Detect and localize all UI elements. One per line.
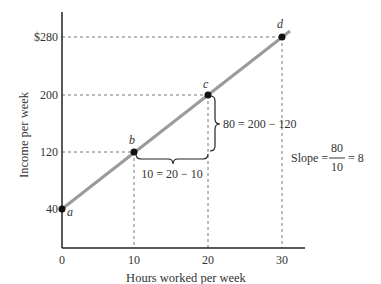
x-axis-title: Hours worked per week [126,271,247,284]
run-brace-icon [136,154,208,164]
label-a: a [67,205,73,219]
x-tick-10: 10 [128,253,140,267]
y-axis-title: Income per week [17,91,31,178]
run-annotation: 10 = 20 − 10 [141,167,203,181]
y-tick-200: 200 [40,88,58,102]
y-tick-280: $280 [34,30,58,44]
point-d [279,34,286,41]
label-b: b [129,133,135,147]
x-tick-30: 30 [276,253,288,267]
rise-annotation: 80 = 200 − 120 [223,117,297,131]
slope-result: = 8 [348,151,364,165]
guide-lines [62,37,282,248]
point-a [59,206,66,213]
y-tick-120: 120 [40,145,58,159]
slope-prefix: Slope = [291,151,328,165]
slope-denominator: 10 [331,160,343,174]
slope-chart: a b c d 40 120 200 $280 0 10 20 30 Hours… [0,0,381,284]
y-tick-40: 40 [46,202,58,216]
x-tick-20: 20 [202,253,214,267]
label-c: c [203,77,209,91]
point-c [205,92,212,99]
label-d: d [277,17,284,31]
x-tick-0: 0 [59,253,65,267]
rise-brace-icon [210,96,220,151]
slope-numerator: 80 [331,141,343,155]
